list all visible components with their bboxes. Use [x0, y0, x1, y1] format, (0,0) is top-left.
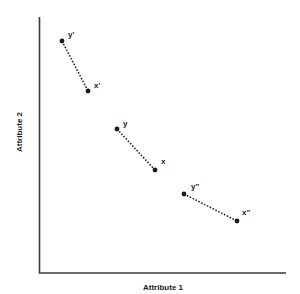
- point-x: [153, 168, 158, 173]
- axes: [40, 17, 287, 273]
- point-y: [115, 127, 120, 132]
- label-x: x: [161, 157, 166, 166]
- point-y-prime: [60, 39, 65, 44]
- pair-double-prime: y" x": [182, 182, 251, 223]
- point-x-double-prime: [235, 219, 240, 224]
- label-x-prime: x': [94, 81, 100, 90]
- pair-prime: y' x': [60, 30, 101, 93]
- label-y-double-prime: y": [191, 182, 199, 191]
- y-axis-title: Attribute 2: [15, 111, 24, 152]
- label-y: y: [123, 119, 128, 128]
- dashed-connector: [184, 194, 237, 221]
- dashed-connector: [62, 41, 88, 91]
- dashed-connector: [117, 129, 155, 170]
- label-y-prime: y': [68, 30, 74, 39]
- point-y-double-prime: [182, 192, 187, 197]
- point-x-prime: [86, 89, 91, 94]
- pair-base: y x: [115, 119, 166, 172]
- label-x-double-prime: x": [242, 208, 250, 217]
- x-axis-title: Attribute 1: [143, 283, 184, 292]
- diagram-canvas: y' x' y x y" x" Attribute 1 Attribute 2: [0, 0, 300, 294]
